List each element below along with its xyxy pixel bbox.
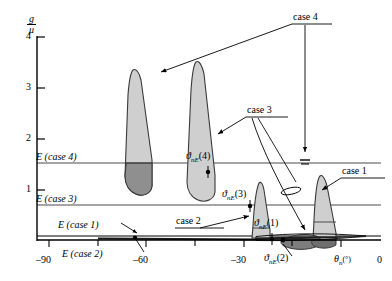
y-tick-label-1: 1: [26, 183, 31, 194]
annotation-case1: case 1: [342, 165, 367, 176]
plot-svg: [0, 0, 392, 281]
x-tick-label-minus30: –30: [231, 254, 246, 265]
y-tick-label-4: 4: [26, 30, 31, 41]
figure-canvas: g μ 4 3 2 1 –90 –60 –30 0 θn(°) E (case …: [0, 0, 392, 281]
theta-sub-4: nE: [191, 156, 199, 164]
y-axis: [37, 36, 45, 241]
theta-paren-3: (3): [235, 188, 247, 199]
annotation-case2: case 2: [176, 215, 201, 226]
x-tick-label-minus90: –90: [36, 254, 51, 265]
leader-ecase1: [121, 223, 137, 233]
label-theta-nE-3: ϑnE(3): [222, 188, 246, 202]
theta-sub-2: nE: [269, 258, 277, 266]
x-axis-label: θn(°): [334, 253, 351, 267]
theta-sub-3: nE: [227, 194, 235, 202]
leader-case4-diagonal: [161, 24, 332, 72]
theta-paren-1: (1): [267, 217, 279, 228]
theta-sub-1: nE: [259, 223, 267, 231]
peak-case4-right: [187, 62, 215, 202]
energy-label-case2: E (case 2): [62, 248, 103, 259]
y-axis-label-numerator: g: [27, 14, 36, 24]
lens-case1-dark: [312, 240, 336, 248]
y-tick-label-3: 3: [26, 81, 31, 92]
y-tick-label-2: 2: [26, 132, 31, 143]
theta-paren-4: (4): [199, 150, 211, 161]
energy-label-case1: E (case 1): [58, 219, 99, 230]
label-theta-nE-1: ϑnE(1): [254, 217, 278, 231]
x-tick-label-0: 0: [377, 254, 382, 265]
label-theta-nE-4: ϑnE(4): [186, 150, 210, 164]
energy-label-case3: E (case 3): [36, 193, 77, 204]
annotation-case4: case 4: [293, 11, 318, 22]
x-tick-label-minus60: –60: [133, 254, 148, 265]
marker-theta-nE-3: [248, 200, 252, 212]
label-theta-nE-2: ϑnE(2): [264, 252, 288, 266]
x-axis-label-unit: (°): [342, 255, 351, 264]
peak-case4-left: [125, 69, 152, 195]
peak-case1: [313, 175, 336, 240]
energy-label-case4: E (case 4): [36, 151, 77, 162]
annotation-case3: case 3: [247, 104, 272, 115]
theta-paren-2: (2): [277, 252, 289, 263]
leader-case1: [322, 178, 385, 190]
